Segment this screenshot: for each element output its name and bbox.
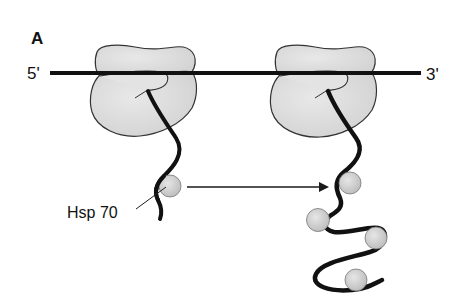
ribosome-right [270,45,376,137]
three-prime-label: 3' [426,66,439,83]
diagram-canvas [0,0,465,300]
hsp70-right-1 [339,172,361,194]
five-prime-label: 5' [27,65,40,82]
hsp70-label: Hsp 70 [67,205,118,221]
hsp70-right-2 [307,209,330,232]
hsp70-right-4 [345,269,367,291]
diagram: A 5' 3' Hsp 70 [0,0,465,300]
ribosome-left [90,45,196,136]
panel-label: A [31,30,43,47]
hsp70-right-3 [365,227,387,249]
